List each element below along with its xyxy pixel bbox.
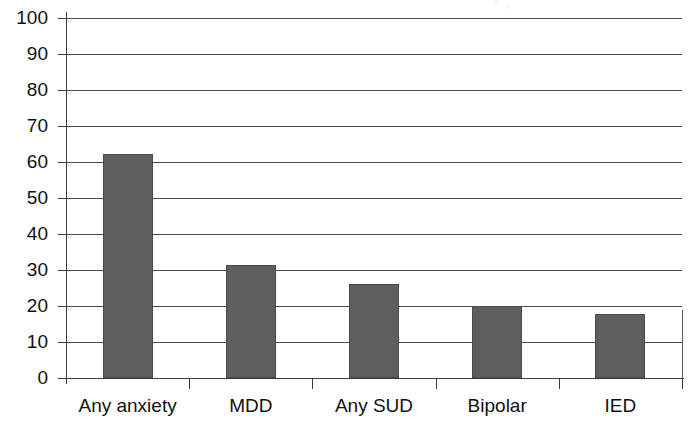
y-axis-tick-label-slot: 10 — [0, 332, 48, 351]
y-axis-tick — [58, 270, 67, 271]
y-axis-tick — [58, 378, 67, 379]
plot-right-border-stub — [682, 310, 683, 378]
cropped-header-artifact: ' , — [495, 0, 575, 9]
gridline — [66, 126, 682, 127]
gridline — [66, 90, 682, 91]
y-axis-tick — [58, 306, 67, 307]
y-axis-tick-label-slot: 40 — [0, 224, 48, 243]
y-axis-tick-label-slot: 70 — [0, 116, 48, 135]
bar — [595, 314, 645, 378]
y-axis-tick — [58, 162, 67, 163]
y-axis-tick — [58, 342, 67, 343]
category-tick — [559, 378, 560, 389]
gridline — [66, 198, 682, 199]
x-axis-line — [60, 378, 684, 379]
x-axis-category-label: IED — [559, 394, 682, 417]
bar-chart: ' , 0102030405060708090100 Any anxietyMD… — [0, 0, 695, 427]
bar — [472, 306, 522, 378]
y-axis-tick-label: 0 — [0, 368, 48, 387]
y-axis-tick-label-slot: 30 — [0, 260, 48, 279]
y-axis-tick — [58, 54, 67, 55]
x-axis-category-label: Any anxiety — [66, 394, 189, 417]
gridline — [66, 270, 682, 271]
y-axis-tick-label-slot: 0 — [0, 368, 48, 387]
y-axis-tick — [58, 90, 67, 91]
gridline — [66, 234, 682, 235]
y-axis-tick-label: 90 — [0, 44, 48, 63]
category-tick — [189, 378, 190, 389]
category-tick — [682, 378, 683, 389]
bar — [226, 265, 276, 378]
y-axis-tick — [58, 198, 67, 199]
y-axis-tick — [58, 126, 67, 127]
y-axis-tick-label: 80 — [0, 80, 48, 99]
y-axis-tick-label: 60 — [0, 152, 48, 171]
x-axis-category-label: MDD — [189, 394, 312, 417]
bar — [103, 154, 153, 378]
y-axis-tick-label: 40 — [0, 224, 48, 243]
x-axis-category-label: Any SUD — [312, 394, 435, 417]
category-tick — [436, 378, 437, 389]
y-axis-tick-label-slot: 100 — [0, 8, 48, 27]
y-axis-tick-label: 30 — [0, 260, 48, 279]
x-axis-category-label: Bipolar — [436, 394, 559, 417]
y-axis-tick-label: 70 — [0, 116, 48, 135]
y-axis-tick-label: 100 — [0, 8, 48, 27]
y-axis-tick-label-slot: 60 — [0, 152, 48, 171]
y-axis-tick — [58, 234, 67, 235]
gridline — [66, 18, 682, 19]
y-axis-tick-label-slot: 50 — [0, 188, 48, 207]
y-axis-tick-label: 20 — [0, 296, 48, 315]
y-axis-tick-label-slot: 20 — [0, 296, 48, 315]
gridline — [66, 54, 682, 55]
gridline — [66, 162, 682, 163]
y-axis-tick-label-slot: 90 — [0, 44, 48, 63]
bar — [349, 284, 399, 378]
y-axis-tick-label-slot: 80 — [0, 80, 48, 99]
y-axis-tick — [58, 18, 67, 19]
category-tick — [312, 378, 313, 389]
y-axis-tick-label: 50 — [0, 188, 48, 207]
y-axis-tick-label: 10 — [0, 332, 48, 351]
